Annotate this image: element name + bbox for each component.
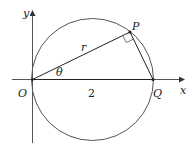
polar-circle-diagram: y x O P Q r θ 2: [0, 0, 194, 151]
origin-dot: [31, 78, 34, 81]
point-q-label: Q: [153, 87, 162, 100]
point-p-label: P: [131, 20, 140, 33]
diameter-length-label: 2: [88, 87, 95, 100]
radius-label: r: [81, 41, 87, 54]
y-axis-label: y: [22, 7, 30, 20]
angle-theta-label: θ: [56, 66, 63, 79]
x-axis-label: x: [180, 84, 187, 97]
origin-label: O: [18, 87, 27, 100]
point-q-dot: [151, 78, 154, 81]
